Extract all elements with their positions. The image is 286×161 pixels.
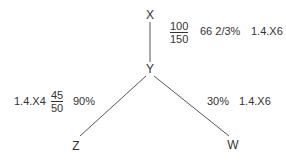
yz-fraction-numerator: 45: [51, 90, 63, 102]
yz-fraction: 45 50: [51, 90, 63, 114]
xy-fraction-numerator: 100: [170, 21, 188, 33]
yw-ref: 1.4.X6: [239, 96, 271, 107]
yw-percent: 30%: [207, 96, 229, 107]
diagram-edges: [0, 0, 286, 161]
xy-fraction: 100 150: [170, 21, 188, 45]
node-x: X: [146, 9, 154, 21]
xy-percent: 66 2/3%: [200, 26, 240, 37]
xy-fraction-denominator: 150: [170, 33, 188, 45]
yz-fraction-denominator: 50: [51, 102, 63, 114]
node-w: W: [227, 139, 238, 151]
yz-ref: 1.4.X4: [14, 96, 46, 107]
node-y: Y: [146, 63, 154, 75]
yz-percent: 90%: [73, 96, 95, 107]
node-z: Z: [72, 140, 79, 152]
xy-ref: 1.4.X6: [251, 26, 283, 37]
